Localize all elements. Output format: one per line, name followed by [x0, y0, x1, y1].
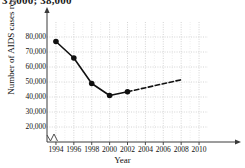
aids-cases-line-chart: 37,000; 38,000 Number of AIDS cases repo…	[0, 0, 245, 168]
plot-area	[0, 0, 245, 168]
data-series-layer	[53, 39, 181, 99]
gridlines	[47, 22, 208, 142]
